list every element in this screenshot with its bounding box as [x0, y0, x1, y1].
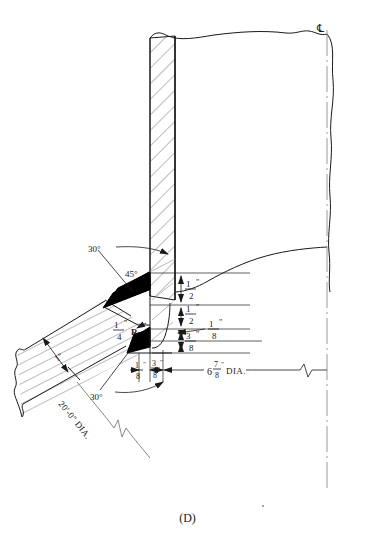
svg-text:DIA.: DIA. [226, 366, 246, 376]
angle-30-upper-label: 30° [88, 244, 101, 254]
svg-text:2: 2 [189, 316, 194, 326]
svg-text:R: R [131, 327, 138, 337]
dim-half-inch-lower: 1 2 " [185, 303, 199, 326]
svg-text:20'-0" DIA.: 20'-0" DIA. [56, 399, 92, 441]
svg-text:": " [196, 278, 199, 287]
dim-bore-diameter: 6 7 8 " DIA. [207, 360, 246, 380]
svg-text:": " [196, 303, 199, 312]
svg-text:": " [219, 318, 222, 327]
svg-text:8: 8 [153, 371, 157, 380]
svg-text:1: 1 [135, 361, 139, 370]
svg-text:": " [124, 319, 127, 328]
dim-three-eighths-inch: 3 8 " [185, 330, 199, 353]
stray-mark [262, 505, 264, 507]
centerline-symbol: ℄ [316, 22, 324, 34]
weld-joint-detail-drawing: ℄ 30° 45° 30° 1 4 " R 1 2 " [0, 0, 375, 544]
svg-text:8: 8 [215, 371, 219, 380]
angle-45-label: 45° [125, 269, 138, 279]
svg-text:3: 3 [152, 359, 156, 368]
svg-text:6: 6 [207, 366, 212, 377]
dim-bottom-eighth: 1 8 " [134, 360, 146, 381]
angle-30-lower-label: 30° [90, 392, 103, 402]
figure-caption: (D) [0, 511, 375, 526]
svg-text:1: 1 [186, 279, 191, 289]
svg-text:8: 8 [212, 331, 217, 341]
svg-text:8: 8 [136, 372, 140, 381]
dim-shell-diameter: 20'-0" DIA. [56, 399, 92, 441]
svg-text:3: 3 [186, 331, 191, 341]
drawing-canvas: ℄ 30° 45° 30° 1 4 " R 1 2 " [0, 0, 375, 544]
svg-text:1: 1 [114, 320, 119, 330]
svg-text:7: 7 [214, 360, 218, 369]
svg-text:2: 2 [189, 291, 194, 301]
dim-bottom-three-eighths: 3 8 " [151, 358, 163, 380]
svg-text:": " [160, 358, 163, 366]
dim-eighth-inch: 1 8 " [208, 318, 222, 341]
svg-text:1: 1 [186, 304, 191, 314]
svg-text:": " [221, 360, 224, 368]
svg-text:": " [143, 360, 146, 368]
svg-text:4: 4 [117, 332, 122, 342]
svg-text:1: 1 [209, 319, 214, 329]
svg-text:": " [196, 330, 199, 339]
svg-text:8: 8 [189, 343, 194, 353]
